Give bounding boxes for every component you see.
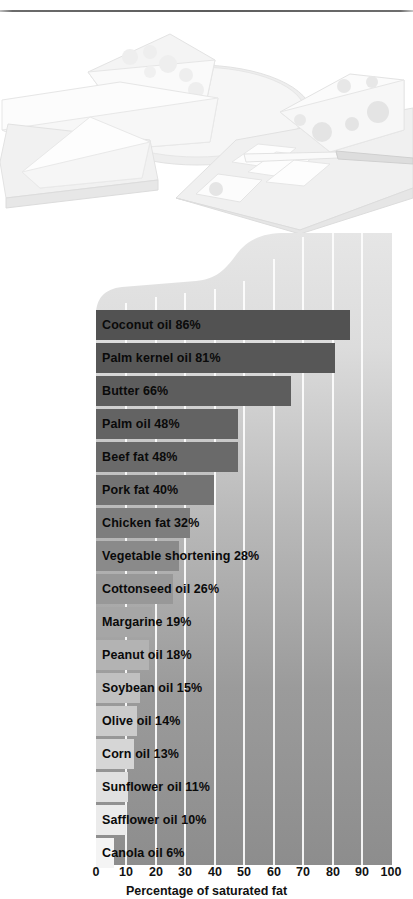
bar-label-corn-oil: Corn oil 13% (102, 739, 179, 769)
bar-label-chicken-fat: Chicken fat 32% (102, 508, 199, 538)
bar-label-sunflower-oil: Sunflower oil 11% (102, 772, 210, 802)
infographic-page: Coconut oil 86% Palm kernel oil 81% Butt… (0, 0, 413, 899)
x-tick-60: 60 (267, 865, 281, 879)
plot-area: Coconut oil 86% Palm kernel oil 81% Butt… (0, 225, 413, 865)
bar-label-palm-oil: Palm oil 48% (102, 409, 180, 439)
x-tick-50: 50 (237, 865, 251, 879)
bar-label-soybean-oil: Soybean oil 15% (102, 673, 202, 703)
bar-label-butter: Butter 66% (102, 376, 168, 406)
saturated-fat-bar-chart: Coconut oil 86% Palm kernel oil 81% Butt… (0, 225, 413, 899)
x-tick-40: 40 (208, 865, 222, 879)
x-tick-80: 80 (326, 865, 340, 879)
bar-label-coconut-oil: Coconut oil 86% (102, 310, 201, 340)
bar-label-vegetable-shortening: Vegetable shortening 28% (102, 541, 259, 571)
x-axis-title: Percentage of saturated fat (0, 884, 413, 898)
x-tick-30: 30 (178, 865, 192, 879)
bar-label-canola-oil: Canola oil 6% (102, 838, 185, 868)
bar-label-beef-fat: Beef fat 48% (102, 442, 178, 472)
bar-label-cottonseed-oil: Cottonseed oil 26% (102, 574, 219, 604)
bar-label-palm-kernel-oil: Palm kernel oil 81% (102, 343, 221, 373)
x-axis: 0 10 20 30 40 50 60 70 80 90 100 Percent… (0, 865, 413, 899)
x-tick-0: 0 (93, 865, 100, 879)
x-tick-90: 90 (355, 865, 369, 879)
x-tick-70: 70 (296, 865, 310, 879)
x-tick-100: 100 (381, 865, 402, 879)
bar-label-safflower-oil: Safflower oil 10% (102, 805, 207, 835)
x-tick-20: 20 (149, 865, 163, 879)
bar-series: Coconut oil 86% Palm kernel oil 81% Butt… (0, 225, 413, 865)
dairy-fats-illustration (0, 12, 413, 234)
bar-label-olive-oil: Olive oil 14% (102, 706, 180, 736)
bar-label-peanut-oil: Peanut oil 18% (102, 640, 192, 670)
x-tick-10: 10 (119, 865, 133, 879)
bar-label-pork-fat: Pork fat 40% (102, 475, 178, 505)
bar-label-margarine: Margarine 19% (102, 607, 192, 637)
